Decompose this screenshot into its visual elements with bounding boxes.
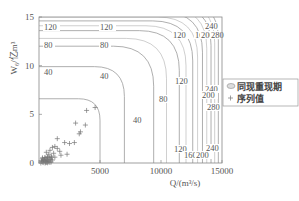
plus-marker-icon (83, 123, 88, 128)
joint-return-period-chart: 1201208080404040801201602002802401202402… (0, 0, 299, 201)
contour-label: 200 (202, 90, 215, 100)
x-axis-title: Q/(m³/s) (170, 178, 201, 188)
y-tick-label: 15 (25, 12, 35, 22)
contour-label: 40 (44, 67, 53, 77)
plus-marker-icon (55, 136, 60, 141)
contour-label: 240 (205, 21, 218, 31)
contour-line (39, 38, 166, 163)
y-tick-label: 5 (30, 109, 35, 119)
contour-label: 40 (100, 71, 109, 81)
contour-label: 40 (133, 115, 142, 125)
plus-marker-icon (84, 108, 89, 113)
plus-marker-icon (62, 140, 67, 145)
contour-line (39, 21, 193, 163)
plus-marker-icon (65, 152, 70, 157)
contour-label: 80 (44, 40, 53, 50)
contour-label: 280 (207, 102, 220, 112)
ellipse-marker-icon (227, 84, 235, 89)
contour-line (39, 46, 154, 163)
plus-marker-icon (50, 145, 55, 150)
contour-labels: 1201208080404040801201602002802401202402… (43, 21, 227, 160)
legend: 同现重现期 序列值 (223, 79, 298, 106)
x-tick-label: 10000 (150, 166, 173, 176)
contour-label: 80 (100, 40, 109, 50)
contour-label: 240 (206, 143, 219, 153)
contour-label: 160 (184, 150, 197, 160)
contour-label: 80 (159, 94, 168, 104)
scatter-points (38, 105, 97, 165)
plus-marker-icon (73, 121, 78, 126)
contour-line (39, 99, 100, 163)
x-tick-label: 15000 (211, 166, 234, 176)
y-axis-title: W₆/亿m³ (8, 41, 19, 74)
plus-marker-icon (93, 105, 98, 110)
legend-entry-return-period: 同现重现期 (237, 81, 282, 92)
x-tick-label: 5000 (91, 166, 110, 176)
contour-label: 120 (173, 30, 186, 40)
y-tick-label: 10 (25, 61, 35, 71)
contour-label: 120 (175, 76, 188, 86)
contour-label: 120 (100, 22, 113, 32)
plus-marker-icon (72, 140, 77, 145)
contour-lines (39, 0, 218, 163)
plus-marker-icon (57, 149, 62, 154)
plus-marker-icon (58, 153, 63, 158)
contour-label: 120 (44, 22, 57, 32)
plus-marker-icon (67, 141, 72, 146)
legend-entry-series: 序列值 (237, 93, 264, 104)
contour-line (39, 0, 218, 163)
contour-line (39, 67, 124, 163)
y-tick-label: 0 (30, 158, 35, 168)
